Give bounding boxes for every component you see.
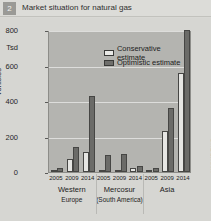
y-axis-title: Vehicles: [0, 68, 3, 96]
x-axis-year-label: 2014: [80, 175, 96, 181]
bar: [121, 154, 127, 172]
watermark-text: UMWDEHC: [210, 138, 211, 173]
bar-series-group: [49, 32, 190, 172]
x-axis-group-label: WesternEurope: [48, 185, 96, 204]
x-group-label-line2: (South America): [96, 195, 144, 205]
x-group-label-line1: Western: [48, 185, 96, 195]
slide-number-badge: 2: [3, 2, 16, 15]
bar: [162, 131, 168, 172]
bar: [89, 96, 95, 172]
y-axis-tick: [45, 173, 48, 174]
x-group-label-line2: Europe: [48, 195, 96, 205]
x-axis-year-label: 2009: [159, 175, 175, 181]
x-axis-year-label: 2014: [127, 175, 143, 181]
chart-container: Vehicles 0200400600800Tsd Conservative e…: [0, 18, 211, 221]
x-axis-group-labels: WesternEuropeMercosur(South America)Asia: [48, 185, 191, 215]
x-group-label-line1: Mercosur: [96, 185, 144, 195]
y-axis-tick-label: 400: [0, 98, 18, 105]
bar: [137, 166, 143, 172]
bar: [99, 170, 105, 172]
group-separator: [143, 174, 144, 214]
x-axis-group-label: Mercosur(South America): [96, 185, 144, 204]
page-header: 2 Market situation for natural gas: [0, 0, 211, 17]
y-axis-unit-label: Tsd: [0, 43, 18, 52]
bar: [105, 155, 111, 172]
y-axis-tick-label: 600: [0, 63, 18, 70]
x-axis-year-label: 2014: [175, 175, 191, 181]
bar: [153, 168, 159, 172]
bar: [178, 73, 184, 172]
bar: [168, 108, 174, 172]
x-group-label-line1: Asia: [143, 185, 191, 195]
x-axis-year-label: 2009: [64, 175, 80, 181]
x-axis-year-label: 2005: [48, 175, 64, 181]
page-title: Market situation for natural gas: [22, 3, 132, 12]
y-axis-tick-label: 800: [0, 27, 18, 34]
bar-group: [97, 32, 145, 172]
bar: [130, 168, 136, 172]
chart-page: 2 Market situation for natural gas Vehic…: [0, 0, 211, 221]
x-axis-group-label: Asia: [143, 185, 191, 195]
bar: [83, 152, 89, 172]
bar: [51, 170, 57, 172]
bar: [146, 170, 152, 172]
bar: [73, 147, 79, 172]
group-separator: [96, 174, 97, 214]
bar-group: [144, 32, 192, 172]
x-axis-year-label: 2005: [96, 175, 112, 181]
bar-group: [49, 32, 97, 172]
x-axis-year-label: 2009: [112, 175, 128, 181]
x-axis-year-labels: 200520092014200520092014200520092014: [48, 175, 191, 184]
plot-area: Conservative estimate Optimistic estimat…: [48, 31, 191, 173]
bar: [184, 30, 190, 172]
bar: [67, 159, 73, 172]
bar: [57, 168, 63, 172]
y-axis-tick-label: 0: [0, 169, 18, 176]
y-axis-tick-label: 200: [0, 134, 18, 141]
header-divider: [0, 16, 211, 17]
x-axis-year-label: 2005: [143, 175, 159, 181]
bar: [115, 170, 121, 172]
